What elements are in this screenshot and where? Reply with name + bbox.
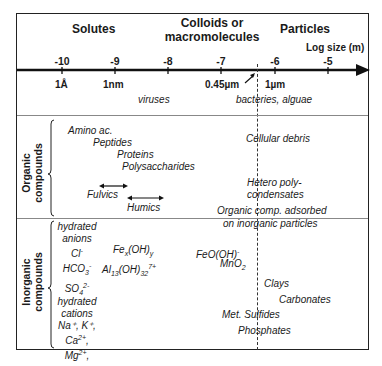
item-humics: Humics xyxy=(127,202,160,214)
unit-nanometer: 1nm xyxy=(103,79,124,90)
ion-sodium-potassium: Na⁺, K⁺, xyxy=(54,320,100,332)
ion-magnesium: Mg2+, xyxy=(54,347,100,362)
item-amino-acids: Amino ac. xyxy=(68,125,112,137)
ion-calcium: Ca2+, xyxy=(54,332,100,347)
item-carbonates: Carbonates xyxy=(279,294,331,306)
item-fulvics: Fulvics xyxy=(87,189,118,201)
item-organic-adsorbed-1: Organic comp. adsorbed xyxy=(217,205,327,217)
item-manganese-dioxide: MnO2 xyxy=(220,258,246,274)
unit-angstrom: 1Å xyxy=(55,79,68,90)
label-inorganic-compounds: Inorganic compounds xyxy=(20,242,48,322)
item-hetero-polycondensates-1: Hetero poly- xyxy=(247,177,301,189)
item-hetero-polycondensates-2: condensates xyxy=(247,189,304,201)
item-organic-adsorbed-2: on inorganic particles xyxy=(223,218,318,230)
item-iron-hydroxide: Fex(OH)y xyxy=(113,244,153,260)
item-peptides: Peptides xyxy=(93,137,132,149)
item-phosphates: Phosphates xyxy=(238,325,291,337)
label-viruses: viruses xyxy=(138,94,170,106)
ion-bicarbonate: HCO3- xyxy=(54,260,100,279)
unit-micrometer: 1µm xyxy=(265,79,285,90)
item-polysaccharides: Polysaccharides xyxy=(122,161,195,173)
label-organic-compounds: Organic compounds xyxy=(20,133,48,213)
group-hydrated-cations: hydrated cations Na⁺, K⁺, Ca2+, Mg2+, xyxy=(54,296,100,363)
unit-filter-cutoff: 0.45µm xyxy=(205,79,239,90)
group-hydrated-anions: hydrated anions Cl- HCO3- SO42- xyxy=(54,221,100,299)
item-cellular-debris: Cellular debris xyxy=(246,133,310,145)
label-bacteria: bacteries, alguae xyxy=(236,94,312,106)
ion-chloride: Cl- xyxy=(54,245,100,260)
separator-organic xyxy=(17,115,368,116)
item-aluminum-hydroxide: Al13(OH)327+ xyxy=(102,261,156,280)
item-metal-sulfides: Met. Sulfides xyxy=(222,309,280,321)
item-clays: Clays xyxy=(264,278,289,290)
item-proteins: Proteins xyxy=(117,149,154,161)
